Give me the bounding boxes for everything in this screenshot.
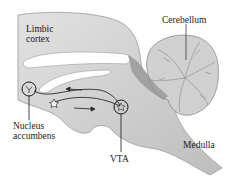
limbic-label-line2: cortex — [26, 34, 53, 44]
nucleus-label-line2: accumbens — [13, 131, 55, 141]
brain-diagram: Limbic cortex Cerebellum Nucleus accumbe… — [0, 0, 233, 181]
medulla-label: Medulla — [183, 140, 215, 150]
vta-label: VTA — [110, 154, 129, 164]
cerebellum-label: Cerebellum — [162, 15, 206, 25]
limbic-cortex-label: Limbic cortex — [26, 24, 53, 44]
nucleus-label-line1: Nucleus — [13, 121, 55, 131]
limbic-label-line1: Limbic — [26, 24, 53, 34]
nucleus-accumbens-label: Nucleus accumbens — [13, 121, 55, 141]
